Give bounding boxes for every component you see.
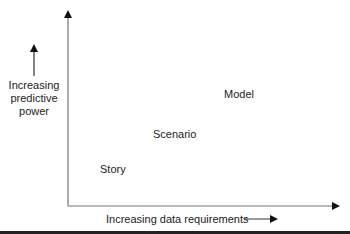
point-story: Story bbox=[100, 163, 126, 176]
point-scenario: Scenario bbox=[153, 128, 196, 141]
y-label-line-1: Increasing bbox=[2, 79, 66, 92]
y-axis-label: Increasing predictive power bbox=[2, 79, 66, 118]
point-model: Model bbox=[224, 88, 254, 101]
bottom-rule bbox=[0, 231, 350, 234]
x-axis-label: Increasing data requirements bbox=[106, 213, 248, 226]
y-label-line-2: predictive bbox=[2, 92, 66, 105]
y-label-line-3: power bbox=[2, 105, 66, 118]
